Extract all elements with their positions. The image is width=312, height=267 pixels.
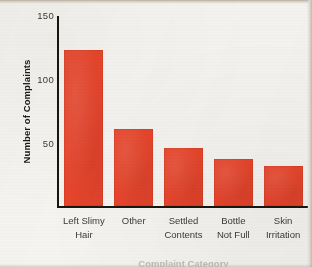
bar-left-slimy-hair bbox=[64, 50, 103, 206]
bar-skin-irritation bbox=[264, 166, 303, 207]
x-axis-tick-label-left-slimy-hair: Left Slimy Hair bbox=[59, 214, 109, 241]
x-axis-tick-label-line2: Not Full bbox=[208, 228, 258, 242]
bar-bottle-not-full bbox=[214, 159, 253, 206]
x-axis-tick-label-line1: Skin bbox=[274, 215, 292, 226]
x-axis-tick-label-line1: Bottle bbox=[221, 215, 245, 226]
x-axis-tick-label-line2: Irritation bbox=[258, 228, 308, 242]
plot-area bbox=[59, 16, 308, 206]
y-axis-tick-label-100: 100 bbox=[8, 74, 54, 85]
x-axis-line bbox=[57, 206, 308, 208]
bar-settled-contents bbox=[164, 148, 203, 206]
x-axis-tick-label-line1: Settled bbox=[169, 215, 199, 226]
y-axis-line bbox=[57, 16, 59, 208]
x-axis-tick-label-bottle-not-full: Bottle Not Full bbox=[208, 214, 258, 241]
bar-other bbox=[114, 129, 153, 206]
x-axis-tick-label-line2: Hair bbox=[59, 228, 109, 242]
bar-chart-figure: Number of Complaints 150 100 50 Left Sli… bbox=[0, 0, 312, 267]
y-axis-title: Number of Complaints bbox=[21, 42, 32, 182]
x-axis-tick-label-line1: Other bbox=[122, 215, 146, 226]
scan-edge-top bbox=[0, 0, 312, 4]
x-axis-tick-label-line2: Contents bbox=[159, 228, 209, 242]
x-axis-tick-label-other: Other bbox=[109, 214, 159, 228]
x-axis-tick-label-line1: Left Slimy bbox=[63, 215, 105, 226]
x-axis-tick-label-skin-irritation: Skin Irritation bbox=[258, 214, 308, 241]
y-axis-tick-label-50: 50 bbox=[8, 138, 54, 149]
y-axis-tick-label-150: 150 bbox=[8, 10, 54, 21]
x-axis-tick-label-settled-contents: Settled Contents bbox=[159, 214, 209, 241]
scan-edge-right bbox=[307, 0, 312, 267]
